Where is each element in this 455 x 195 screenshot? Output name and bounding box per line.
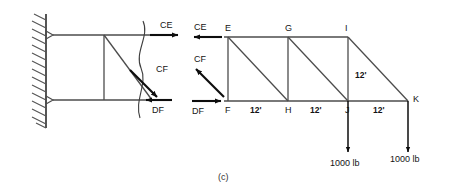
force-label-cf-right: CF bbox=[194, 54, 206, 64]
wall-hatching bbox=[32, 14, 46, 128]
node-label-g: G bbox=[285, 23, 292, 33]
force-label-cf-left: CF bbox=[156, 64, 168, 74]
wall-pin-supports bbox=[46, 31, 53, 104]
node-label-f: F bbox=[225, 105, 231, 115]
member-g-j bbox=[288, 37, 348, 101]
member-i-k bbox=[348, 37, 408, 101]
dimension-label-j-k: 12' bbox=[373, 105, 384, 115]
load-label-k: 1000 lb bbox=[390, 154, 420, 164]
force-label-df-left: DF bbox=[152, 105, 164, 115]
force-label-ce-right: CE bbox=[194, 22, 207, 32]
force-label-df-right: DF bbox=[192, 106, 204, 116]
dimension-label-i-j: 12' bbox=[355, 70, 366, 80]
right-free-body-diagram: CE CF DF E G I F H bbox=[192, 22, 420, 168]
node-label-i: I bbox=[345, 23, 348, 33]
truss-diagram-svg: CE CF DF CE CF DF bbox=[0, 0, 455, 195]
figure-container: CE CF DF CE CF DF bbox=[0, 0, 455, 195]
force-arrow-cf-right bbox=[196, 69, 224, 97]
force-arrow-cf-left bbox=[130, 70, 157, 97]
dimension-label-h-j: 12' bbox=[310, 105, 321, 115]
node-label-h: H bbox=[285, 105, 292, 115]
figure-caption: (c) bbox=[218, 172, 229, 182]
node-label-e: E bbox=[225, 23, 231, 33]
force-label-ce-left: CE bbox=[160, 20, 173, 30]
node-label-k: K bbox=[413, 94, 419, 104]
left-diagonal-member bbox=[104, 35, 152, 100]
left-free-body-diagram: CE CF DF bbox=[32, 14, 178, 128]
member-e-h bbox=[228, 37, 288, 101]
load-label-j: 1000 lb bbox=[330, 158, 360, 168]
dimension-label-f-h: 12' bbox=[250, 105, 261, 115]
